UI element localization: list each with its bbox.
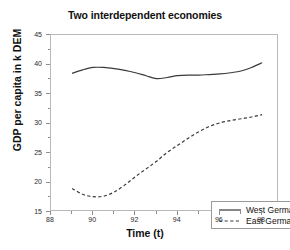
x-tick-label: 90: [81, 216, 103, 223]
y-tick-mark-minor: [48, 196, 51, 197]
x-tick-mark-minor: [71, 211, 72, 214]
plot-area: West Germany East Germany: [50, 34, 278, 211]
legend-label-west-germany: West Germany: [243, 205, 290, 215]
x-tick-label: 94: [166, 216, 188, 223]
x-tick-mark-minor: [240, 211, 241, 214]
x-tick-mark: [92, 211, 93, 215]
x-tick-label: 98: [250, 216, 272, 223]
x-tick-mark: [261, 211, 262, 215]
chart-figure: Two interdependent economies West German…: [0, 0, 290, 250]
chart-title: Two interdependent economies: [0, 9, 290, 21]
y-tick-label: 25: [22, 149, 42, 156]
y-tick-mark: [46, 123, 50, 124]
chart-legend: West Germany East Germany: [211, 201, 290, 229]
plot-lines: [51, 35, 279, 212]
y-tick-mark-minor: [48, 137, 51, 138]
series-line-west-germany: [72, 63, 262, 79]
y-tick-mark-minor: [48, 108, 51, 109]
x-tick-label: 92: [123, 216, 145, 223]
y-tick-mark: [46, 64, 50, 65]
y-tick-mark-minor: [48, 167, 51, 168]
x-tick-mark: [134, 211, 135, 215]
x-tick-label: 96: [208, 216, 230, 223]
y-tick-mark-minor: [48, 49, 51, 50]
legend-item-west-germany: West Germany: [217, 204, 290, 215]
y-axis-title: GDP per capita in k DEM: [11, 0, 23, 205]
y-tick-label: 45: [22, 31, 42, 38]
x-tick-label: 88: [39, 216, 61, 223]
y-tick-mark: [46, 182, 50, 183]
y-tick-mark-minor: [48, 78, 51, 79]
x-tick-mark: [219, 211, 220, 215]
series-line-east-germany: [72, 115, 262, 197]
y-tick-label: 20: [22, 178, 42, 185]
y-tick-label: 15: [22, 208, 42, 215]
y-tick-mark: [46, 152, 50, 153]
y-tick-mark: [46, 34, 50, 35]
x-tick-mark-minor: [198, 211, 199, 214]
x-axis-title: Time (t): [0, 227, 290, 239]
y-tick-label: 40: [22, 60, 42, 67]
x-tick-mark: [177, 211, 178, 215]
y-tick-label: 30: [22, 119, 42, 126]
x-tick-mark: [50, 211, 51, 215]
x-tick-mark-minor: [113, 211, 114, 214]
y-tick-mark: [46, 93, 50, 94]
y-tick-label: 35: [22, 90, 42, 97]
x-tick-mark-minor: [156, 211, 157, 214]
